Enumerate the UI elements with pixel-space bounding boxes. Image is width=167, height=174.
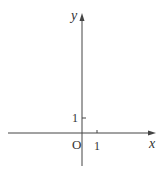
x-tick-label: 1 <box>94 139 100 153</box>
y-axis-arrow-icon <box>80 13 85 21</box>
axes-svg: y x O 1 1 <box>0 0 167 174</box>
x-axis-label: x <box>148 136 156 151</box>
y-axis-label: y <box>69 8 78 23</box>
y-tick-label: 1 <box>72 111 78 125</box>
coordinate-plane: y x O 1 1 <box>0 0 167 174</box>
x-axis-arrow-icon <box>148 131 156 136</box>
origin-label: O <box>72 137 81 152</box>
